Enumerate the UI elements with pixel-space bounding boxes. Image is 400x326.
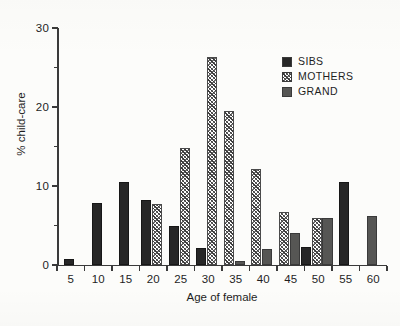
bar-sibs-5 bbox=[64, 259, 74, 265]
legend-item-sibs: SIBS bbox=[282, 55, 353, 69]
x-tick bbox=[249, 266, 251, 271]
x-tick-label: 30 bbox=[202, 273, 215, 285]
x-tick bbox=[276, 266, 278, 271]
x-tick-label: 5 bbox=[68, 273, 74, 285]
legend-label: MOTHERS bbox=[298, 70, 353, 84]
bar-grand-50 bbox=[322, 218, 332, 265]
x-tick-label: 60 bbox=[367, 273, 380, 285]
bar-sibs-50 bbox=[301, 247, 311, 265]
x-tick-label: 25 bbox=[174, 273, 187, 285]
x-tick bbox=[386, 266, 388, 271]
bar-mothers-35 bbox=[224, 111, 234, 265]
bar-sibs-20 bbox=[141, 200, 151, 265]
bar-grand-35 bbox=[235, 261, 245, 265]
legend-swatch-icon bbox=[282, 87, 292, 97]
bar-mothers-20 bbox=[152, 204, 162, 265]
x-tick bbox=[359, 266, 361, 271]
y-tick-label: 0 bbox=[42, 259, 49, 271]
bar-grand-45 bbox=[290, 233, 300, 265]
x-tick-label: 20 bbox=[147, 273, 160, 285]
bar-sibs-25 bbox=[169, 226, 179, 265]
legend-swatch-icon bbox=[282, 72, 292, 82]
x-tick bbox=[84, 266, 86, 271]
legend-label: SIBS bbox=[298, 55, 324, 69]
x-tick-label: 50 bbox=[312, 273, 325, 285]
x-tick bbox=[56, 266, 58, 271]
x-tick-label: 40 bbox=[257, 273, 270, 285]
bar-sibs-55 bbox=[339, 182, 349, 265]
x-tick bbox=[331, 266, 333, 271]
x-tick bbox=[304, 266, 306, 271]
y-tick-label: 30 bbox=[36, 22, 49, 34]
x-tick-label: 15 bbox=[119, 273, 132, 285]
x-tick bbox=[221, 266, 223, 271]
x-tick-label: 35 bbox=[229, 273, 242, 285]
bar-mothers-30 bbox=[207, 57, 217, 265]
bar-grand-60 bbox=[367, 216, 377, 265]
bar-mothers-40 bbox=[251, 169, 261, 265]
legend-swatch-icon bbox=[282, 57, 292, 67]
y-axis-title: % child-care bbox=[15, 59, 27, 189]
y-tick-label: 10 bbox=[36, 180, 49, 192]
bar-mothers-45 bbox=[279, 212, 289, 265]
x-tick bbox=[111, 266, 113, 271]
chart-legend: SIBSMOTHERSGRAND bbox=[282, 55, 353, 100]
x-axis-title: Age of female bbox=[57, 291, 387, 303]
bar-sibs-15 bbox=[119, 182, 129, 265]
bar-sibs-30 bbox=[196, 248, 206, 265]
bar-grand-40 bbox=[262, 249, 272, 265]
x-tick bbox=[166, 266, 168, 271]
x-tick-label: 55 bbox=[339, 273, 352, 285]
x-tick bbox=[139, 266, 141, 271]
x-tick-label: 10 bbox=[92, 273, 105, 285]
bar-mothers-50 bbox=[312, 218, 322, 265]
legend-item-mothers: MOTHERS bbox=[282, 70, 353, 84]
y-tick-label: 20 bbox=[36, 101, 49, 113]
legend-label: GRAND bbox=[298, 85, 338, 99]
x-tick-label: 45 bbox=[284, 273, 297, 285]
legend-item-grand: GRAND bbox=[282, 85, 353, 99]
chart-figure: 0102030 51015202530354045505560 Age of f… bbox=[0, 0, 400, 326]
x-tick bbox=[194, 266, 196, 271]
bar-sibs-10 bbox=[92, 203, 102, 265]
bar-mothers-25 bbox=[180, 148, 190, 265]
